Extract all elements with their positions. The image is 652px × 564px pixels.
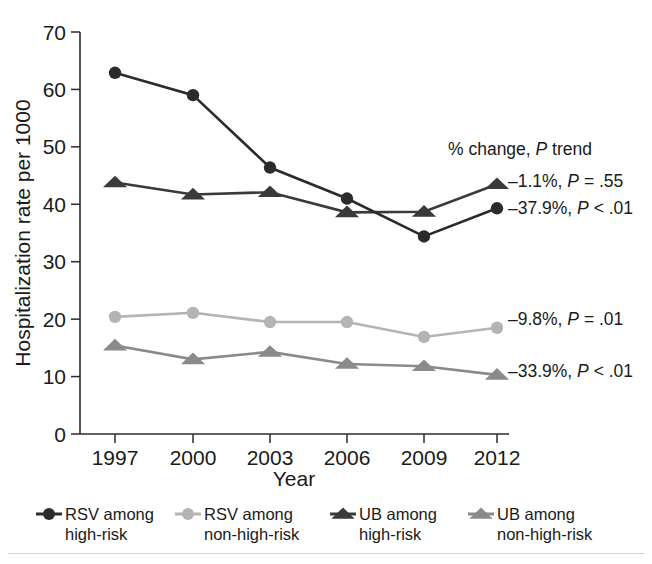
annotation-ub-non-high-risk: –33.9%, P < .01 bbox=[508, 361, 633, 381]
data-point-triangle bbox=[485, 177, 509, 189]
legend-label-line2: high-risk bbox=[359, 525, 422, 543]
y-tick-label: 30 bbox=[43, 250, 66, 273]
series-layer bbox=[103, 67, 509, 380]
annotation-rsv-non-high-risk: –9.8%, P = .01 bbox=[508, 309, 623, 329]
series-ub-among-non-high-risk bbox=[103, 339, 509, 380]
legend-label-line1: RSV among bbox=[65, 505, 154, 523]
series-line bbox=[115, 73, 497, 237]
annotation-header: % change, P trend bbox=[448, 139, 592, 159]
series-rsv-among-non-high-risk bbox=[109, 307, 503, 344]
data-point-circle bbox=[109, 311, 121, 323]
data-point-circle bbox=[187, 89, 199, 101]
legend-item-1[interactable]: RSV amongnon-high-risk bbox=[175, 505, 300, 543]
x-tick-label: 2000 bbox=[170, 446, 217, 469]
annotation-rsv-high-risk: –37.9%, P < .01 bbox=[508, 198, 633, 218]
legend-marker-circle bbox=[43, 508, 55, 520]
legend-item-2[interactable]: UB amonghigh-risk bbox=[330, 505, 437, 543]
x-tick-label: 2012 bbox=[474, 446, 521, 469]
legend-marker-circle bbox=[182, 508, 194, 520]
y-axis-title: Hospitalization rate per 1000 bbox=[11, 99, 34, 366]
y-tick-label: 60 bbox=[43, 78, 66, 101]
data-point-circle bbox=[264, 161, 276, 173]
x-tick-label: 1997 bbox=[92, 446, 139, 469]
y-axis-ticks: 010203040506070 bbox=[43, 21, 80, 446]
bottom-divider bbox=[8, 553, 644, 554]
data-point-triangle bbox=[258, 345, 282, 357]
legend-item-3[interactable]: UB amongnon-high-risk bbox=[468, 505, 593, 543]
data-point-circle bbox=[341, 316, 353, 328]
x-tick-label: 2003 bbox=[247, 446, 294, 469]
y-tick-label: 40 bbox=[43, 193, 66, 216]
data-point-circle bbox=[491, 202, 503, 214]
annotation-ub-high-risk: –1.1%, P = .55 bbox=[508, 171, 623, 191]
series-line bbox=[115, 313, 497, 337]
series-line bbox=[115, 346, 497, 375]
legend-label-line2: non-high-risk bbox=[204, 525, 300, 543]
data-point-circle bbox=[491, 322, 503, 334]
data-point-circle bbox=[418, 230, 430, 242]
legend-label-line1: UB among bbox=[359, 505, 437, 523]
legend-label-line2: non-high-risk bbox=[497, 525, 593, 543]
x-tick-label: 2006 bbox=[324, 446, 371, 469]
series-line bbox=[115, 182, 497, 212]
y-tick-label: 0 bbox=[54, 423, 66, 446]
x-axis-ticks: 199720002003200620092012 bbox=[92, 434, 521, 469]
y-tick-label: 50 bbox=[43, 135, 66, 158]
data-point-triangle bbox=[103, 176, 127, 188]
data-point-circle bbox=[109, 67, 121, 79]
line-chart: 010203040506070 199720002003200620092012… bbox=[0, 0, 652, 564]
data-point-triangle bbox=[103, 339, 127, 351]
y-tick-label: 20 bbox=[43, 308, 66, 331]
x-tick-label: 2009 bbox=[401, 446, 448, 469]
x-axis-title: Year bbox=[273, 467, 315, 490]
data-point-circle bbox=[264, 316, 276, 328]
y-tick-label: 70 bbox=[43, 21, 66, 44]
data-point-circle bbox=[418, 331, 430, 343]
y-tick-label: 10 bbox=[43, 365, 66, 388]
legend-label-line1: UB among bbox=[497, 505, 575, 523]
annotation-layer: % change, P trend–1.1%, P = .55–37.9%, P… bbox=[448, 139, 633, 381]
data-point-circle bbox=[341, 192, 353, 204]
data-point-circle bbox=[187, 307, 199, 319]
chart-legend: RSV amonghigh-riskRSV amongnon-high-risk… bbox=[36, 505, 593, 543]
series-rsv-among-high-risk bbox=[109, 67, 503, 243]
legend-item-0[interactable]: RSV amonghigh-risk bbox=[36, 505, 154, 543]
figure-container: 010203040506070 199720002003200620092012… bbox=[0, 0, 652, 564]
legend-label-line1: RSV among bbox=[204, 505, 293, 523]
legend-label-line2: high-risk bbox=[65, 525, 128, 543]
